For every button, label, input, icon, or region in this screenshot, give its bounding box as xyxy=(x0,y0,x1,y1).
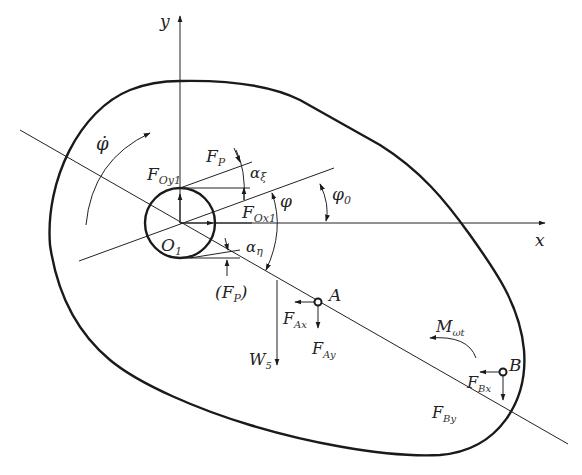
label-FAx: FAx xyxy=(282,309,307,330)
label-alpha-xi: αξ xyxy=(250,164,267,184)
label-moment: Mωt xyxy=(435,317,466,338)
force-FP-arrow xyxy=(234,148,240,162)
body-axis-line xyxy=(20,130,568,444)
y-axis-label: y xyxy=(159,11,170,31)
label-W5: W5 xyxy=(249,350,272,371)
label-FAy: FAy xyxy=(311,339,336,360)
label-alpha-eta: αη xyxy=(246,238,263,258)
body-outline xyxy=(50,81,525,455)
label-FP: FP xyxy=(205,146,226,169)
x-axis-label: x xyxy=(535,230,545,250)
label-phi: φ xyxy=(280,191,292,211)
label-FBy: FBy xyxy=(431,403,456,424)
label-point-B: B xyxy=(508,355,522,375)
label-FOy1: FOy1 xyxy=(146,164,181,187)
label-FBx: FBx xyxy=(466,373,491,394)
alpha-xi-arc xyxy=(236,150,244,200)
point-A xyxy=(315,299,322,306)
moment-arc xyxy=(430,338,476,358)
label-FOx1: FOx1 xyxy=(241,202,276,225)
point-B xyxy=(500,369,507,376)
label-phi0: φ0 xyxy=(332,184,351,207)
label-O1: O1 xyxy=(161,235,182,258)
phi-angle-arc xyxy=(266,193,277,270)
phi0-angle-arc xyxy=(320,184,327,221)
label-FP-alt: (FP) xyxy=(215,282,247,305)
label-point-A: A xyxy=(327,285,341,305)
angular-velocity-label: φ̇ xyxy=(96,133,109,154)
free-body-diagram: y x φ̇ FOy1 FP αξ FOx1 φ φ0 O1 αη (FP) A… xyxy=(0,0,582,475)
